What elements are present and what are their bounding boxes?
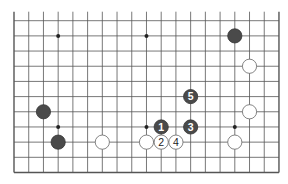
move-number: 5 <box>188 90 194 102</box>
black-stone-move-1: 1 <box>154 120 168 134</box>
black-stone-move-3: 3 <box>184 120 198 134</box>
star-point <box>56 125 60 129</box>
star-point <box>233 125 237 129</box>
white-stone-move-4: 4 <box>169 135 183 149</box>
star-point <box>56 34 60 38</box>
black-stone-move-5: 5 <box>184 90 198 104</box>
white-stone <box>139 135 153 149</box>
white-stone <box>242 59 256 73</box>
move-number: 4 <box>173 136 179 148</box>
black-stone <box>228 29 242 43</box>
move-number: 2 <box>158 136 164 148</box>
star-point <box>144 34 148 38</box>
white-stone <box>228 135 242 149</box>
white-stone <box>95 135 109 149</box>
move-number: 1 <box>158 121 164 133</box>
white-stone-move-2: 2 <box>154 135 168 149</box>
black-stone <box>51 135 65 149</box>
move-number: 3 <box>188 121 194 133</box>
go-board-diagram: 12345 <box>0 0 288 184</box>
black-stone <box>36 105 50 119</box>
star-point <box>144 125 148 129</box>
white-stone <box>242 105 256 119</box>
